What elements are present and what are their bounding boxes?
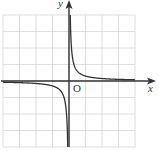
curve-branch-negative	[3, 82, 68, 147]
hyperbola-plot	[0, 0, 159, 151]
curve-branch-positive	[70, 15, 135, 80]
x-axis-label: x	[148, 82, 153, 94]
y-axis-label: y	[58, 0, 63, 9]
origin-label: O	[73, 82, 81, 94]
